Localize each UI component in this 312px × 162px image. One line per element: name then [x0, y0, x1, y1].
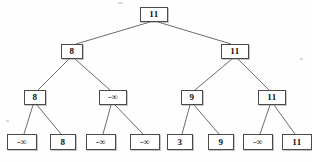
- tree-node: 3: [167, 134, 193, 150]
- tree-node: 9: [181, 90, 203, 105]
- binary-tree-diagram: 118118-∞911-∞8-∞-∞39-∞11: [0, 0, 312, 162]
- tree-node: -∞: [86, 134, 116, 150]
- tree-node: 8: [61, 44, 83, 59]
- tree-node: 9: [208, 134, 234, 150]
- tree-node-layer: 118118-∞911-∞8-∞-∞39-∞11: [0, 0, 312, 162]
- tree-node: 11: [282, 134, 312, 150]
- tree-node: 11: [140, 7, 168, 22]
- tree-node: 11: [221, 44, 249, 59]
- tree-node: -∞: [243, 134, 273, 150]
- tree-node: 8: [24, 90, 46, 105]
- tree-node: -∞: [7, 134, 37, 150]
- tree-node: 8: [50, 134, 76, 150]
- tree-node: -∞: [99, 90, 127, 105]
- tree-node: 11: [258, 90, 286, 105]
- tree-node: -∞: [130, 134, 160, 150]
